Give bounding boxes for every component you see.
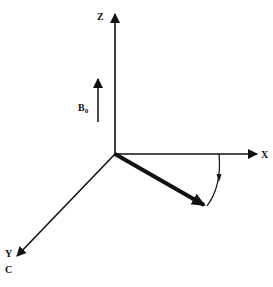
- z-axis-label: Z: [97, 11, 104, 22]
- y-axis-label: Y: [5, 248, 13, 259]
- x-axis-label: X: [261, 149, 269, 160]
- y-axis: [17, 154, 115, 256]
- magnetization-vector: [115, 154, 204, 205]
- rotation-arc: [207, 154, 222, 206]
- arc-arrowhead-icon: [217, 174, 222, 182]
- coordinate-diagram: Z B0 X Y C: [0, 0, 273, 287]
- b0-label: B0: [78, 102, 89, 115]
- corner-label: C: [5, 264, 12, 275]
